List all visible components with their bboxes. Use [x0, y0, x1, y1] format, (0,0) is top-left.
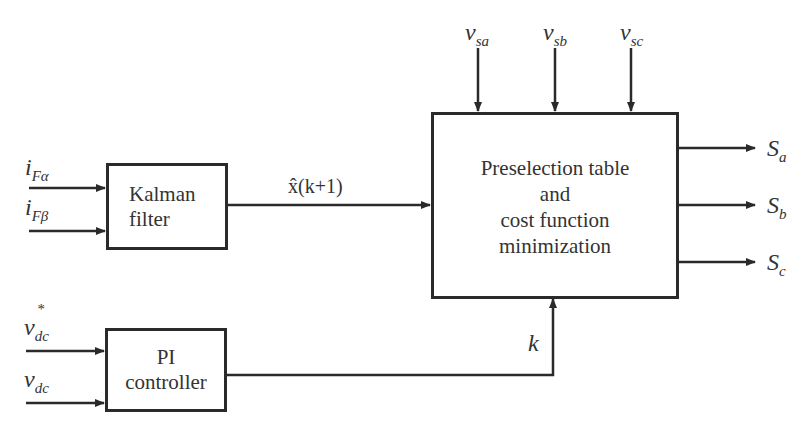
label-sub: Fα: [32, 168, 49, 184]
pi-label-line2: controller: [125, 370, 207, 395]
label-sub: c: [779, 263, 786, 279]
label-i-f-alpha: iFα: [25, 155, 49, 184]
label-sub: Fβ: [32, 208, 49, 224]
label-s-c: Sc: [767, 250, 786, 279]
label-sub: sc: [631, 33, 644, 49]
label-base: v: [620, 19, 631, 45]
label-base: S: [767, 135, 779, 161]
main-label-line1: Preselection table: [481, 155, 630, 181]
label-v-dc: vdc: [24, 367, 49, 396]
label-s-b: Sb: [767, 193, 787, 222]
label-sub: b: [779, 206, 787, 222]
arrow-k: [226, 299, 553, 375]
preselection-cost-block: Preselection table and cost function min…: [431, 112, 679, 299]
label-sub: dc: [35, 380, 49, 396]
label-base: S: [767, 192, 779, 218]
label-sub: sa: [476, 33, 489, 49]
kalman-filter-block: Kalman filter: [106, 163, 228, 250]
label-k: k: [528, 331, 539, 355]
label-sub: sb: [554, 33, 567, 49]
label-base: v: [543, 19, 554, 45]
label-base: i: [25, 154, 32, 180]
label-base: S: [767, 249, 779, 275]
label-sub: a: [779, 149, 787, 165]
label-v-sb: vsb: [543, 20, 567, 49]
label-v-sa: vsa: [465, 20, 489, 49]
kalman-label-line2: filter: [129, 207, 170, 232]
main-label-line4: minimization: [499, 233, 611, 259]
label-s-a: Sa: [767, 136, 787, 165]
pi-label-line1: PI: [157, 345, 176, 370]
label-sup: *: [37, 302, 45, 317]
label-i-f-beta: iFβ: [25, 195, 48, 224]
pi-controller-block: PI controller: [105, 328, 227, 412]
label-base: v: [24, 314, 35, 340]
label-base: v: [24, 366, 35, 392]
label-sub: dc: [35, 328, 49, 344]
label-base: i: [25, 194, 32, 220]
main-label-line2: and: [540, 181, 570, 207]
label-base: v: [465, 19, 476, 45]
main-label-line3: cost function: [500, 207, 609, 233]
label-v-sc: vsc: [620, 20, 643, 49]
label-x-hat: x̂(k+1): [288, 175, 343, 198]
label-v-dc-ref: v*dc: [24, 315, 49, 344]
kalman-label-line1: Kalman: [129, 182, 195, 207]
